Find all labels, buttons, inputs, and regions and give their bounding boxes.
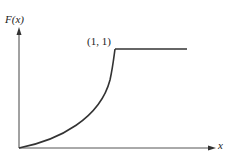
y-axis-arrow-icon [17, 27, 22, 35]
cdf-curve [19, 49, 115, 148]
x-axis-label: x [218, 140, 223, 151]
cdf-chart [0, 0, 236, 160]
x-axis-arrow-icon [208, 146, 216, 151]
y-axis-label: F(x) [5, 14, 24, 25]
point-annotation: (1, 1) [87, 36, 111, 47]
y-axis-label-text: F(x) [5, 13, 24, 25]
